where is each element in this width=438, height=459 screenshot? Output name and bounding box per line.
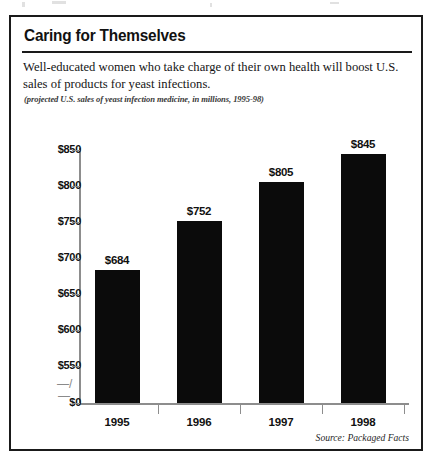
y-axis-tick-row: $700: [11, 251, 81, 265]
y-axis-tick-mark: [72, 222, 80, 223]
x-axis-line: [79, 403, 409, 405]
y-axis-tick-row: $800: [11, 179, 81, 193]
y-axis-tick-mark: [72, 330, 80, 331]
y-axis-tick-label: $700: [35, 251, 81, 263]
x-axis-label-1996: 1996: [163, 416, 236, 428]
bar-value-label-1998: $845: [329, 138, 398, 150]
y-axis-tick-mark: [72, 258, 80, 259]
scan-artifacts: [0, 0, 438, 14]
y-axis-break-icon: —/—: [57, 378, 71, 390]
x-axis-label-1998: 1998: [327, 416, 400, 428]
y-axis-tick-mark: [72, 366, 80, 367]
y-axis-tick-row: $650: [11, 287, 81, 301]
bar-value-label-1995: $684: [83, 254, 152, 266]
y-axis-tick-mark: [72, 403, 80, 404]
chart-card: Caring for Themselves Well-educated wome…: [9, 15, 423, 451]
y-axis-tick-label: $850: [35, 143, 81, 155]
bar-value-label-1996: $752: [165, 205, 234, 217]
x-axis-tick-mark: [240, 405, 241, 414]
y-axis-tick-row: $550: [11, 359, 81, 373]
y-axis-tick-row: $0: [11, 396, 81, 410]
x-axis-tick-mark: [322, 405, 323, 414]
bar-chart-plot: $0$550$600$650$700$750$800$850 —/— $684$…: [11, 17, 425, 453]
bar-1997[interactable]: [259, 182, 304, 403]
source-note: Source: Packaged Facts: [316, 432, 409, 443]
y-axis-tick-row: $750: [11, 215, 81, 229]
y-axis-tick-mark: [72, 150, 80, 151]
scan-speck: [330, 2, 339, 4]
y-axis-tick-label: $800: [35, 179, 81, 191]
scan-speck: [210, 3, 212, 7]
y-axis-tick-mark: [72, 294, 80, 295]
y-axis-tick-mark: [72, 186, 80, 187]
x-axis-tick-mark: [404, 405, 405, 414]
x-axis-label-1995: 1995: [81, 416, 154, 428]
x-axis-label-1997: 1997: [245, 416, 318, 428]
y-axis-tick-label: $750: [35, 215, 81, 227]
bar-1996[interactable]: [177, 221, 222, 403]
scan-speck: [22, 2, 25, 7]
bar-1995[interactable]: [95, 270, 140, 403]
y-axis-tick-label: $600: [35, 323, 81, 335]
y-axis-tick-row: $600: [11, 323, 81, 337]
y-axis-tick-label: $550: [35, 359, 81, 371]
x-axis-tick-mark: [158, 405, 159, 414]
y-axis-tick-label: $650: [35, 287, 81, 299]
scan-speck: [52, 1, 66, 4]
y-axis-tick-row: $850: [11, 143, 81, 157]
bar-value-label-1997: $805: [247, 166, 316, 178]
bar-1998[interactable]: [341, 154, 386, 403]
